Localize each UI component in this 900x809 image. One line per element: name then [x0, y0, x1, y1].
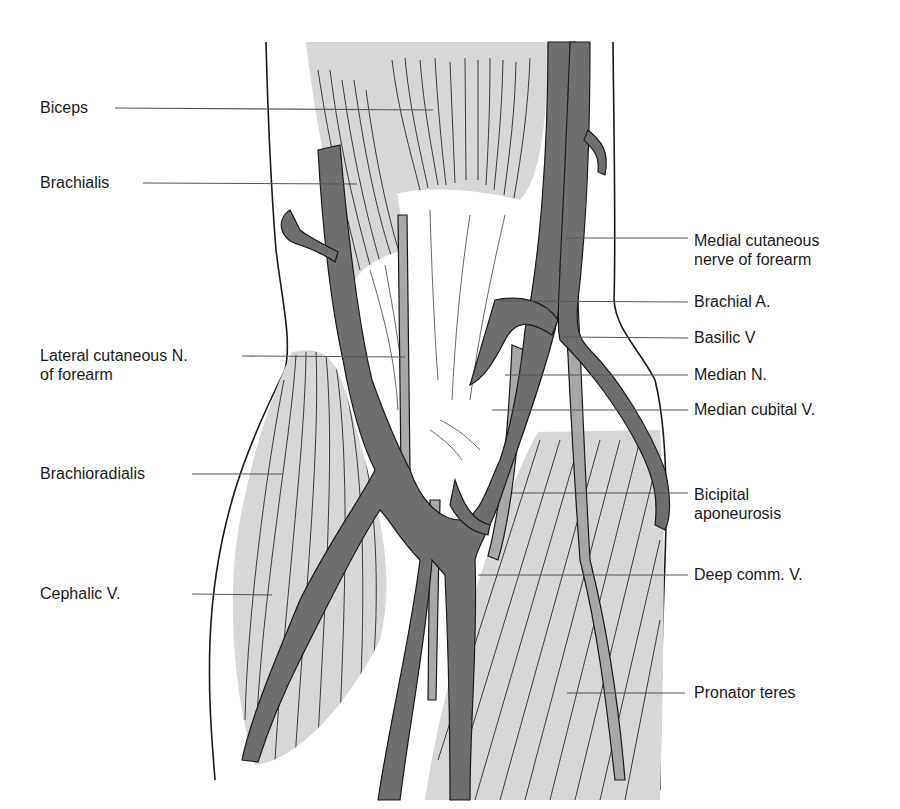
lateral-cutaneous-nerve: [398, 215, 410, 470]
label-cephalic-vein: Cephalic V.: [40, 584, 120, 603]
label-brachialis: Brachialis: [40, 173, 109, 192]
label-median-cubital-vein: Median cubital V.: [694, 400, 815, 419]
label-brachial-artery: Brachial A.: [694, 292, 770, 311]
label-basilic-vein: Basilic V: [694, 328, 755, 347]
label-bicipital-aponeurosis: Bicipital aponeurosis: [694, 485, 781, 523]
label-brachioradialis: Brachioradialis: [40, 464, 145, 483]
label-medial-cutaneous-nerve: Medial cutaneous nerve of forearm: [694, 231, 819, 269]
label-pronator-teres: Pronator teres: [694, 683, 795, 702]
label-median-nerve: Median N.: [694, 365, 767, 384]
label-lateral-cutaneous-nerve: Lateral cutaneous N. of forearm: [40, 346, 188, 384]
label-deep-communicating-vein: Deep comm. V.: [694, 565, 803, 584]
label-biceps: Biceps: [40, 98, 88, 117]
